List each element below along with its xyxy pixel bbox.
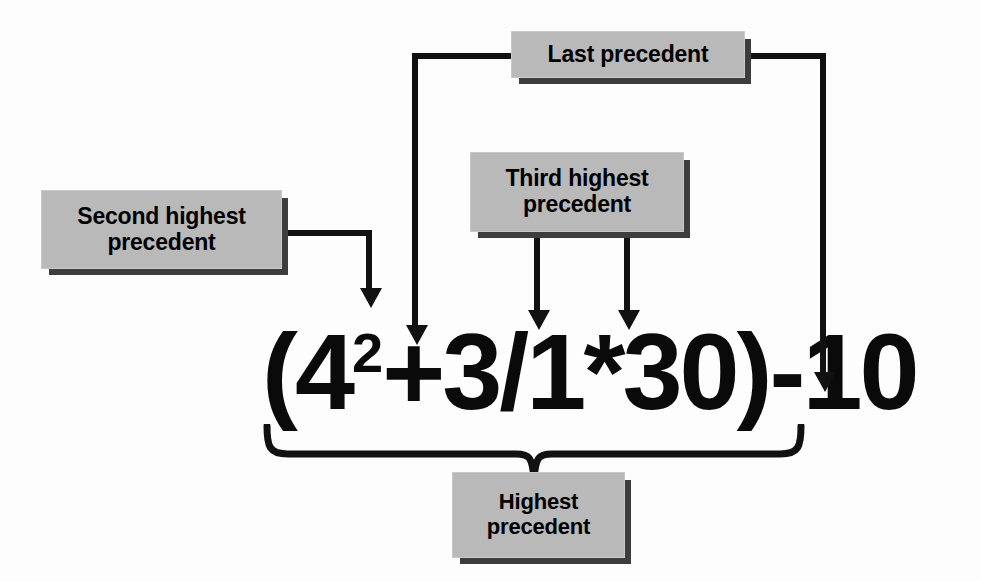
callout-last-precedent-line-1: Last precedent: [548, 42, 709, 68]
expression-exponent: 2: [352, 321, 382, 384]
callout-last-precedent[interactable]: Last precedent: [511, 31, 745, 78]
callout-highest-precedent-line-1: Highest: [487, 490, 590, 515]
arrowhead-to-divide: [528, 310, 550, 330]
connector-third-divide-vertical: [534, 230, 540, 318]
expression-rest: +3/1*30)-10: [382, 311, 916, 432]
callout-highest-precedent[interactable]: Highest precedent: [452, 472, 625, 558]
callout-third-highest-precedent[interactable]: Third highest precedent: [470, 152, 684, 232]
arrowhead-to-plus: [406, 325, 428, 345]
callout-second-highest-precedent[interactable]: Second highest precedent: [41, 190, 282, 269]
connector-third-multiply-vertical: [624, 230, 630, 318]
callout-third-highest-precedent-line-1: Third highest: [505, 166, 648, 192]
callout-second-highest-precedent-line-2: precedent: [77, 230, 245, 256]
precedence-diagram: (42+3/1*30)-10 Last precedent Second hig…: [0, 0, 981, 581]
arrowhead-to-exponent: [360, 288, 382, 308]
connector-second-vertical: [366, 230, 372, 292]
arrowhead-to-multiply: [618, 310, 640, 330]
connector-last-right-horizontal: [742, 53, 826, 59]
callout-second-highest-precedent-line-1: Second highest: [77, 204, 245, 230]
callout-highest-precedent-line-2: precedent: [487, 515, 590, 540]
connector-last-left-vertical: [412, 53, 418, 329]
connector-second-horizontal: [280, 230, 372, 236]
arrowhead-to-minus: [814, 372, 836, 392]
expression-base: (4: [262, 311, 352, 432]
callout-third-highest-precedent-line-2: precedent: [505, 192, 648, 218]
connector-last-left-horizontal: [412, 53, 514, 59]
connector-last-right-vertical: [820, 53, 826, 376]
